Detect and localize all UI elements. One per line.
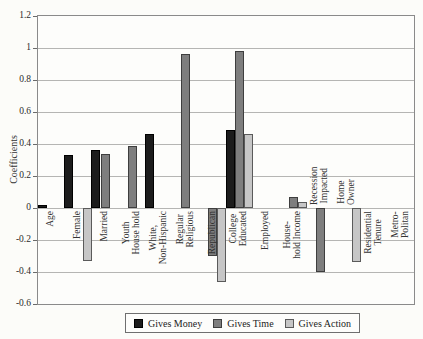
y-tick-label: -0.4 xyxy=(2,266,31,277)
y-tick-label: -0.2 xyxy=(2,234,31,245)
y-tick-label: -0.6 xyxy=(2,298,31,309)
bar xyxy=(83,208,92,261)
legend: Gives MoneyGives TimeGives Action xyxy=(125,313,360,333)
category-label-text: White, Non-Hispanic xyxy=(148,211,168,264)
bar xyxy=(244,134,253,208)
y-tick-label: 0.8 xyxy=(2,74,31,85)
legend-item: Gives Action xyxy=(285,318,352,329)
bar xyxy=(316,208,325,272)
bar xyxy=(181,54,190,208)
coefficients-bar-chart: Coefficients 1.210.80.60.40.20-0.2-0.4-0… xyxy=(0,0,423,339)
y-tick-label: 0.2 xyxy=(2,170,31,181)
y-tick-label: 1 xyxy=(2,42,31,53)
bar xyxy=(38,205,47,208)
category-label: College Educated xyxy=(228,211,250,279)
category-label: Residential Tenure xyxy=(363,211,385,279)
category-label: Metro- Politan xyxy=(390,211,412,279)
category-label: Employed xyxy=(260,211,272,279)
category-label: Married xyxy=(99,211,111,279)
gridline xyxy=(38,48,414,49)
category-label: Recession Impacted xyxy=(309,137,331,205)
legend-item: Gives Money xyxy=(134,318,202,329)
legend-swatch xyxy=(285,319,294,328)
legend-item: Gives Time xyxy=(213,318,273,329)
bar xyxy=(226,130,235,208)
category-label-text: Employed xyxy=(260,211,270,250)
y-tick-label: 0.4 xyxy=(2,138,31,149)
category-label: White, Non-Hispanic xyxy=(148,211,170,279)
bar xyxy=(235,51,244,208)
category-label-text: Republican xyxy=(207,211,217,254)
legend-label: Gives Action xyxy=(299,318,352,329)
bar xyxy=(145,134,154,208)
category-label-text: Youth House hold xyxy=(121,211,141,255)
legend-swatch xyxy=(213,319,222,328)
category-label-text: Age xyxy=(45,211,55,227)
category-label-text: Metro- Politan xyxy=(390,211,410,238)
bar xyxy=(64,155,73,208)
category-label: Youth House hold xyxy=(121,211,143,279)
category-label-text: Regular Religious xyxy=(175,211,195,247)
bar xyxy=(352,208,361,262)
y-tick-label: 0.6 xyxy=(2,106,31,117)
category-label: House- hold Income xyxy=(282,211,304,279)
legend-label: Gives Time xyxy=(227,318,273,329)
bar xyxy=(298,202,307,208)
gridline xyxy=(38,112,414,113)
category-label-text: Residential Tenure xyxy=(363,211,383,254)
category-label-text: House- hold Income xyxy=(282,211,302,259)
y-tick-label: 0 xyxy=(2,202,31,213)
bar xyxy=(91,150,100,208)
gridline xyxy=(38,80,414,81)
category-label: Home Owner xyxy=(336,137,358,205)
category-label-text: Married xyxy=(99,211,109,242)
legend-swatch xyxy=(134,319,143,328)
category-label: Age xyxy=(45,211,57,279)
category-label-text: Recession Impacted xyxy=(309,166,329,205)
plot-area: AgeFemaleMarriedYouth House holdWhite, N… xyxy=(37,15,415,305)
category-label: Female xyxy=(72,211,84,279)
legend-label: Gives Money xyxy=(148,318,202,329)
y-tick-label: 1.2 xyxy=(2,10,31,21)
category-label: Regular Religious xyxy=(175,211,197,279)
category-label-text: Female xyxy=(72,211,82,239)
bar xyxy=(128,146,137,208)
bar xyxy=(289,197,298,208)
category-label-text: College Educated xyxy=(228,211,248,246)
bar xyxy=(101,154,110,208)
category-label: Republican xyxy=(207,211,219,279)
category-label-text: Home Owner xyxy=(336,179,356,205)
